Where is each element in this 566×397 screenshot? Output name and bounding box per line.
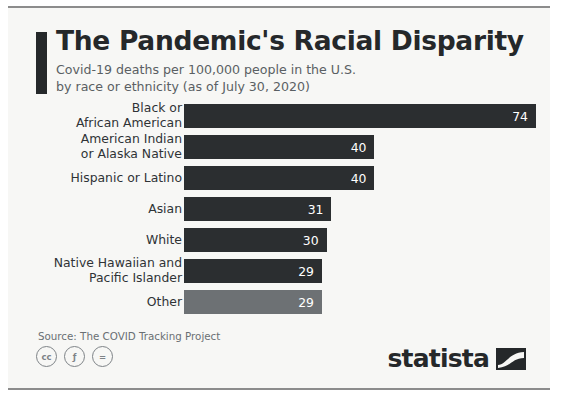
bar-label-line-1: American Indian [0, 132, 182, 147]
cc-attribution-icon[interactable]: ƒ [64, 346, 85, 367]
bar-row: Black orAfrican American74 [8, 104, 550, 128]
bar-label-line-2: or Alaska Native [0, 147, 182, 162]
page-title: The Pandemic's Racial Disparity [56, 26, 536, 55]
bar: 29 [184, 290, 322, 314]
bar: 40 [184, 166, 374, 190]
title-accent-bar [36, 32, 47, 94]
bar-row: Other29 [8, 290, 550, 314]
bar-value-label: 40 [351, 171, 375, 186]
bar-row: Hispanic or Latino40 [8, 166, 550, 190]
bar-label: Hispanic or Latino [0, 171, 182, 186]
bar-value-label: 30 [303, 233, 327, 248]
bar-label-line-2: African American [0, 116, 182, 131]
bar-track: 29 [184, 290, 536, 314]
bar-label-line-1: Black or [0, 101, 182, 116]
subtitle-line-2: by race or ethnicity (as of July 30, 202… [56, 78, 526, 95]
bar-track: 30 [184, 228, 536, 252]
bar: 31 [184, 197, 331, 221]
bar-track: 31 [184, 197, 536, 221]
bar-label: American Indianor Alaska Native [0, 132, 182, 161]
infographic-card: The Pandemic's Racial Disparity Covid-19… [8, 6, 550, 390]
bar-label: Other [0, 295, 182, 310]
bar-label-line-1: Asian [0, 202, 182, 217]
page-subtitle: Covid-19 deaths per 100,000 people in th… [56, 61, 526, 96]
bar: 30 [184, 228, 327, 252]
bar-label: Native Hawaiian andPacific Islander [0, 256, 182, 285]
bar-chart: Black orAfrican American74American India… [8, 104, 550, 321]
bar-value-label: 29 [298, 264, 322, 279]
bar-value-label: 74 [512, 109, 536, 124]
bar-track: 40 [184, 166, 536, 190]
bar-row: American Indianor Alaska Native40 [8, 135, 550, 159]
bar: 29 [184, 259, 322, 283]
bar-value-label: 31 [308, 202, 332, 217]
bar-label-line-2: Pacific Islander [0, 271, 182, 286]
bar: 74 [184, 104, 536, 128]
bar-label: Black orAfrican American [0, 101, 182, 130]
bar-label: Asian [0, 202, 182, 217]
bar: 40 [184, 135, 374, 159]
creative-commons-license-icons: ccƒ= [36, 346, 113, 367]
source-note: Source: The COVID Tracking Project [38, 330, 220, 342]
bar-row: Asian31 [8, 197, 550, 221]
bar-label-line-1: Hispanic or Latino [0, 171, 182, 186]
bar-row: White30 [8, 228, 550, 252]
chart-footer: ccƒ= statista [8, 346, 550, 376]
bar-track: 74 [184, 104, 536, 128]
bar-label-line-1: Other [0, 295, 182, 310]
cc-no-derivatives-icon[interactable]: = [92, 346, 113, 367]
bar-track: 40 [184, 135, 536, 159]
bar-label-line-1: Native Hawaiian and [0, 256, 182, 271]
bar-row: Native Hawaiian andPacific Islander29 [8, 259, 550, 283]
creative-commons-icon[interactable]: cc [36, 346, 57, 367]
statista-wordmark: statista [387, 344, 489, 373]
bar-value-label: 29 [298, 295, 322, 310]
bar-label: White [0, 233, 182, 248]
bar-value-label: 40 [351, 140, 375, 155]
statista-logo: statista [387, 344, 526, 373]
subtitle-line-1: Covid-19 deaths per 100,000 people in th… [56, 61, 526, 78]
bar-label-line-1: White [0, 233, 182, 248]
bar-track: 29 [184, 259, 536, 283]
statista-mark-icon [496, 348, 526, 370]
